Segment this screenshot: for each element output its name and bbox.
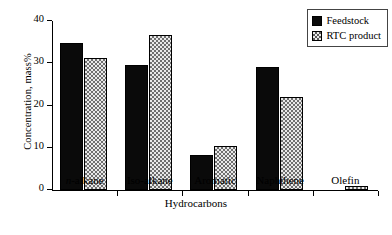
legend-label-rtc-product: RTC product [327, 30, 382, 41]
y-tick-label-40: 40 [34, 13, 45, 24]
bar-n-alkane-rtc [84, 58, 107, 190]
x-axis-title: Hydrocarbons [0, 197, 392, 209]
legend-item-feedstock: Feedstock [312, 13, 382, 28]
x-axis-line [52, 190, 378, 191]
bar-n-alkane-feedstock [60, 43, 83, 190]
x-tick-3 [248, 191, 249, 196]
y-tick-label-10: 10 [34, 140, 45, 151]
bar-chart-figure: Concentration, mass% 010203040 n-alkaneI… [0, 0, 392, 235]
legend-label-feedstock: Feedstock [327, 15, 370, 26]
legend-swatch-rtc-product-icon [312, 31, 322, 41]
y-tick-label-20: 20 [34, 98, 45, 109]
y-axis-title: Concentration, mass% [22, 17, 33, 187]
legend-item-rtc-product: RTC product [312, 28, 382, 43]
x-label-olefin: Olefin [290, 174, 392, 186]
bar-group-iso-alkane [117, 21, 182, 190]
chart-legend: Feedstock RTC product [307, 9, 389, 47]
x-tick-2 [182, 191, 183, 196]
bar-group-aromatic [182, 21, 247, 190]
x-tick-5 [378, 191, 379, 196]
bar-iso-alkane-rtc [149, 35, 172, 190]
x-tick-4 [313, 191, 314, 196]
legend-swatch-feedstock-icon [312, 16, 322, 26]
x-tick-1 [117, 191, 118, 196]
bar-naphthene-feedstock [256, 67, 279, 190]
bar-group-n-alkane [52, 21, 117, 190]
bar-group-naphthene [248, 21, 313, 190]
bar-iso-alkane-feedstock [125, 65, 148, 190]
bar-olefin-rtc [345, 186, 368, 190]
y-tick-label-30: 30 [34, 55, 45, 66]
